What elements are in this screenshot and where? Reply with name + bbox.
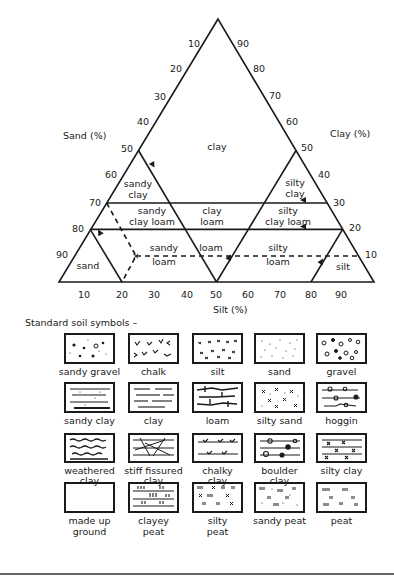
svg-text:loam: loam <box>206 415 230 426</box>
svg-text:80: 80 <box>72 223 84 234</box>
region-loam: loam <box>199 242 223 253</box>
svg-text:silty sand: silty sand <box>257 415 302 426</box>
svg-text:sandy gravel: sandy gravel <box>59 366 120 377</box>
svg-text:silty clay: silty clay <box>321 465 363 476</box>
region-silt: silt <box>336 261 350 272</box>
svg-text:sand: sand <box>268 366 291 377</box>
svg-text:loam: loam <box>266 256 290 267</box>
sand-axis-ticks: 10 20 30 40 50 60 70 80 90 <box>56 38 200 260</box>
svg-text:50: 50 <box>121 143 133 154</box>
svg-text:peat: peat <box>143 526 165 537</box>
svg-text:10: 10 <box>188 38 200 49</box>
symbol-sandy-peat <box>255 483 304 512</box>
region-sandy-clay-loam: sandy <box>138 205 167 216</box>
svg-text:80: 80 <box>305 289 317 300</box>
svg-text:gravel: gravel <box>327 366 357 377</box>
svg-text:30: 30 <box>148 289 160 300</box>
svg-text:50: 50 <box>301 142 313 153</box>
svg-text:clay loam: clay loam <box>129 216 175 227</box>
svg-text:20: 20 <box>349 222 361 233</box>
region-labels: clay sandy clay silty clay sandy clay lo… <box>77 141 351 272</box>
symbol-clay <box>129 383 178 412</box>
svg-text:peat: peat <box>331 515 353 526</box>
svg-text:60: 60 <box>242 289 254 300</box>
sand-boundary-line <box>90 229 122 282</box>
svg-text:made up: made up <box>68 515 110 526</box>
symbol-loam <box>193 383 242 412</box>
svg-text:90: 90 <box>56 249 68 260</box>
symbol-hoggin <box>317 383 366 412</box>
symbol-silty-peat <box>193 483 242 512</box>
svg-text:clay loam: clay loam <box>265 216 311 227</box>
symbol-silty-clay <box>317 434 366 462</box>
svg-text:clay: clay <box>144 475 164 486</box>
svg-text:chalk: chalk <box>141 366 167 377</box>
symbols-heading: Standard soil symbols – <box>25 317 138 328</box>
symbol-peat <box>317 483 366 512</box>
svg-text:90: 90 <box>237 38 249 49</box>
svg-text:10: 10 <box>78 289 90 300</box>
svg-text:loam: loam <box>200 216 224 227</box>
svg-text:70: 70 <box>274 289 286 300</box>
symbol-sandy-gravel <box>65 334 114 363</box>
symbol-gravel <box>317 334 366 363</box>
svg-text:60: 60 <box>105 169 117 180</box>
region-silty-clay-loam: silty <box>278 205 298 216</box>
region-silty-loam: silty <box>268 242 288 253</box>
svg-text:40: 40 <box>318 169 330 180</box>
region-clay: clay <box>207 141 227 152</box>
svg-text:silt: silt <box>211 366 225 377</box>
symbol-chalky-clay <box>193 434 242 462</box>
region-sandy-clay: sandy <box>124 178 153 189</box>
cross-mark: × <box>132 251 140 261</box>
svg-text:40: 40 <box>181 289 193 300</box>
svg-text:80: 80 <box>253 63 265 74</box>
silt-axis-label: Silt (%) <box>213 304 248 315</box>
symbol-clayey-peat <box>129 483 178 512</box>
svg-text:30: 30 <box>333 197 345 208</box>
svg-text:90: 90 <box>335 289 347 300</box>
arrow-icon <box>149 161 157 169</box>
sandy-loam-dashed-line <box>107 203 136 282</box>
symbol-silt <box>193 334 242 363</box>
svg-text:clay: clay <box>285 188 305 199</box>
svg-text:20: 20 <box>170 63 182 74</box>
symbol-made-up-ground <box>65 483 114 512</box>
silt-axis-ticks: 10 20 30 40 50 60 70 80 90 <box>78 289 347 300</box>
svg-text:20: 20 <box>116 289 128 300</box>
symbol-silty-sand <box>255 383 304 412</box>
svg-text:sandy clay: sandy clay <box>64 415 115 426</box>
sand-axis-label: Sand (%) <box>63 130 106 141</box>
soil-diagram: × 10 20 30 40 50 60 70 80 90 90 80 70 60… <box>0 0 394 584</box>
svg-text:clay: clay <box>270 475 290 486</box>
svg-text:clay: clay <box>144 415 164 426</box>
svg-text:clay: clay <box>128 189 148 200</box>
region-clay-loam: clay <box>202 205 222 216</box>
svg-text:hoggin: hoggin <box>325 415 358 426</box>
svg-text:40: 40 <box>137 116 149 127</box>
svg-text:60: 60 <box>286 116 298 127</box>
svg-text:clay: clay <box>80 475 100 486</box>
svg-text:50: 50 <box>210 289 222 300</box>
clay-axis-label: Clay (%) <box>330 128 370 139</box>
symbol-stiff-fissured-clay <box>129 434 178 462</box>
symbol-sand <box>255 334 304 363</box>
region-sand: sand <box>77 260 100 271</box>
svg-text:clay: clay <box>208 475 228 486</box>
svg-text:70: 70 <box>269 90 281 101</box>
svg-text:peat: peat <box>207 526 229 537</box>
svg-text:ground: ground <box>73 526 107 537</box>
svg-text:loam: loam <box>152 256 176 267</box>
svg-text:silty: silty <box>208 515 228 526</box>
symbol-boulder-clay <box>255 434 304 462</box>
region-sandy-loam: sandy <box>150 242 179 253</box>
svg-text:30: 30 <box>154 91 166 102</box>
svg-text:70: 70 <box>89 197 101 208</box>
svg-text:sandy peat: sandy peat <box>253 515 306 526</box>
symbol-chalk <box>129 334 178 363</box>
symbol-weathered-clay <box>65 434 114 462</box>
svg-text:clayey: clayey <box>138 515 169 526</box>
symbol-sandy-clay <box>65 383 114 412</box>
svg-text:10: 10 <box>365 249 377 260</box>
region-silty-clay: silty <box>285 177 305 188</box>
